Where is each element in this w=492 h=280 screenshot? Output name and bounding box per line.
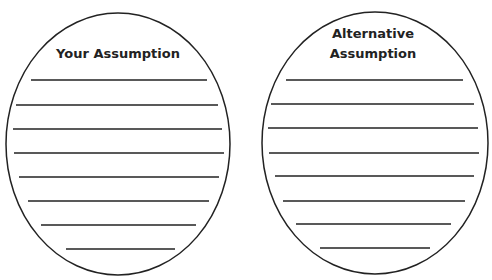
alternative-assumption-oval: Alternative Assumption — [262, 12, 488, 274]
oval-title: Your Assumption — [55, 46, 180, 61]
your-assumption-oval: Your Assumption — [6, 13, 230, 275]
assumption-diagram: Your Assumption Alternative Assumption — [0, 0, 492, 280]
oval-title-line-1: Alternative — [332, 26, 414, 41]
oval-title-line-2: Assumption — [330, 46, 417, 61]
